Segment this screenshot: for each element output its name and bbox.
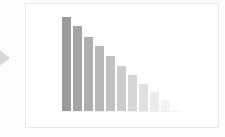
- bar-series: [62, 13, 180, 111]
- bar-3: [84, 37, 93, 111]
- bar-9: [150, 92, 159, 111]
- bar-1: [62, 17, 71, 111]
- bar-chart-plot-area: [62, 13, 180, 111]
- chart-card: [25, 3, 219, 128]
- bar-10: [161, 100, 170, 111]
- bar-7: [128, 75, 137, 111]
- chart-baseline: [62, 111, 180, 112]
- bar-4: [95, 46, 104, 111]
- arrow-right-icon: [0, 42, 16, 74]
- bar-6: [117, 66, 126, 111]
- thumbnail-root: [0, 0, 225, 137]
- bar-8: [139, 84, 148, 111]
- bar-2: [73, 26, 82, 111]
- bar-5: [106, 56, 115, 111]
